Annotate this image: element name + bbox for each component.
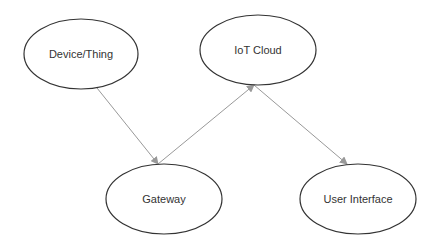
edge-device-to-gateway [97, 88, 158, 164]
node-device-label: Device/Thing [49, 48, 113, 60]
node-gateway-label: Gateway [142, 193, 185, 205]
node-cloud-label: IoT Cloud [234, 44, 282, 56]
edge-cloud-to-ui [254, 85, 347, 164]
diagram-canvas [0, 0, 434, 246]
edge-gateway-to-cloud [158, 85, 254, 164]
node-ui-label: User Interface [323, 193, 392, 205]
